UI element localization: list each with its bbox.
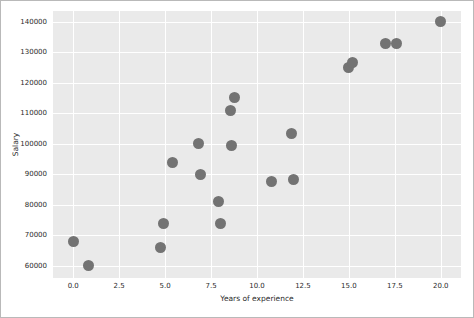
y-tick-label: 130000 (7, 48, 47, 57)
scatter-point (225, 105, 236, 116)
y-tick-label: 90000 (7, 170, 47, 179)
scatter-point (288, 174, 299, 185)
gridline-horizontal (53, 266, 461, 267)
y-tick-label: 60000 (7, 261, 47, 270)
y-tick-label: 70000 (7, 231, 47, 240)
scatter-point (195, 169, 206, 180)
x-tick-label: 12.5 (295, 282, 311, 291)
x-tick-label: 20.0 (433, 282, 449, 291)
y-tick-label: 80000 (7, 200, 47, 209)
gridline-horizontal (53, 52, 461, 53)
x-tick-label: 10.0 (249, 282, 265, 291)
scatter-point (68, 236, 79, 247)
gridline-horizontal (53, 144, 461, 145)
scatter-point (229, 92, 240, 103)
plot-area (53, 11, 461, 278)
x-tick-label: 0.0 (68, 282, 79, 291)
y-tick-label: 110000 (7, 109, 47, 118)
scatter-point (266, 176, 277, 187)
scatter-point (83, 260, 94, 271)
gridline-horizontal (53, 174, 461, 175)
scatter-point (215, 218, 226, 229)
figure-canvas: Years of experience Salary 0.02.55.07.51… (0, 0, 474, 318)
scatter-point (347, 57, 358, 68)
scatter-point (435, 16, 446, 27)
x-tick-label: 17.5 (387, 282, 403, 291)
y-tick-label: 140000 (7, 17, 47, 26)
scatter-point (226, 140, 237, 151)
gridline-horizontal (53, 113, 461, 114)
x-axis-label: Years of experience (53, 294, 461, 304)
scatter-point (167, 157, 178, 168)
x-tick-label: 5.0 (160, 282, 171, 291)
y-tick-label: 100000 (7, 139, 47, 148)
scatter-point (193, 138, 204, 149)
gridline-horizontal (53, 22, 461, 23)
gridline-horizontal (53, 235, 461, 236)
scatter-point (158, 218, 169, 229)
scatter-point (380, 38, 391, 49)
x-tick-label: 15.0 (341, 282, 357, 291)
scatter-point (155, 242, 166, 253)
x-tick-label: 7.5 (205, 282, 216, 291)
scatter-point (286, 128, 297, 139)
y-tick-label: 120000 (7, 78, 47, 87)
gridline-horizontal (53, 205, 461, 206)
x-tick-label: 2.5 (114, 282, 125, 291)
gridline-horizontal (53, 83, 461, 84)
scatter-point (391, 38, 402, 49)
